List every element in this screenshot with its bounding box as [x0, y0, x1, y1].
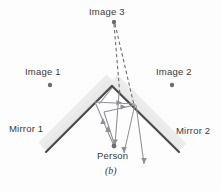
label-person: Person	[97, 150, 128, 161]
optics-figure: Image 3 Image 1 Image 2 Mirror 1 Mirror …	[0, 0, 221, 191]
image1-point	[48, 83, 52, 87]
mirror2-line	[112, 86, 179, 152]
person-point	[112, 144, 117, 149]
arrowhead-right-b	[120, 104, 126, 109]
label-mirror-1: Mirror 1	[9, 123, 43, 134]
ray-mirror2-out-a	[124, 104, 135, 153]
ray-mirror1-to-mirror2-b	[104, 105, 135, 112]
image3-point	[112, 20, 116, 24]
mirror2-shade-soft	[114, 78, 183, 147]
label-image-3: Image 3	[89, 6, 125, 17]
arrowhead-down-b	[141, 158, 147, 164]
label-mirror-2: Mirror 2	[176, 125, 210, 136]
arrowhead-right-a	[116, 100, 122, 105]
image2-point	[170, 83, 174, 87]
arrowhead-up-a	[100, 118, 106, 124]
figure-caption: (b)	[105, 165, 117, 176]
label-image-1: Image 1	[25, 66, 61, 77]
label-image-2: Image 2	[156, 66, 192, 77]
figure-canvas	[0, 0, 221, 191]
